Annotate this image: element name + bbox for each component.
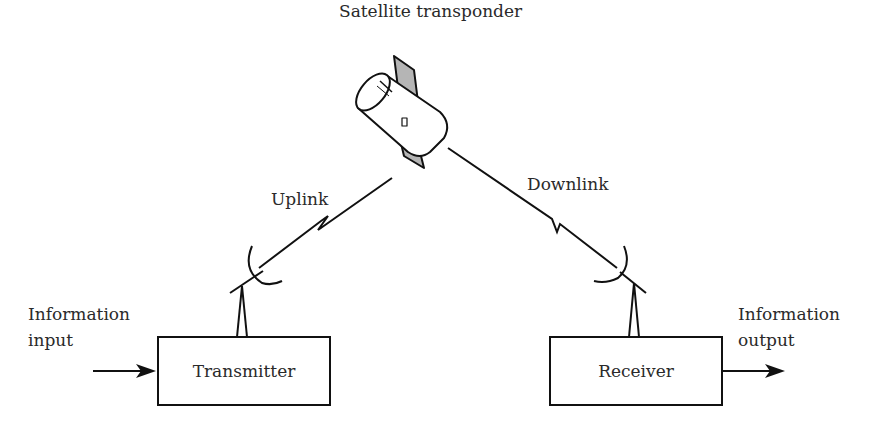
transmitter-dish-antenna-icon — [230, 246, 282, 337]
uplink-label: Uplink — [271, 189, 329, 209]
receiver-dish-antenna-icon — [594, 246, 646, 337]
downlink-path — [448, 148, 617, 268]
downlink-label: Downlink — [527, 174, 609, 194]
receiver-label: Receiver — [598, 361, 675, 381]
transmitter-label: Transmitter — [193, 361, 297, 381]
output-arrow-icon — [722, 364, 785, 378]
input-label-line1: Information — [28, 304, 130, 324]
input-label-line2: input — [28, 330, 73, 350]
satellite-label: Satellite transponder — [339, 1, 523, 21]
output-label-line2: output — [738, 330, 795, 350]
input-arrow-icon — [93, 364, 156, 378]
satellite-icon — [350, 56, 448, 168]
satellite-link-diagram: Satellite transponder Uplink Downlink — [0, 0, 882, 430]
output-label-line1: Information — [738, 304, 840, 324]
